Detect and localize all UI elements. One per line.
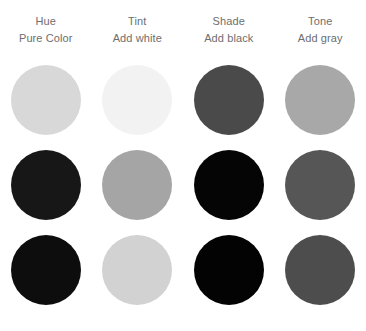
swatch-row [0, 142, 366, 227]
color-swatch-circle [11, 65, 81, 135]
swatch-cell [92, 142, 184, 227]
color-swatch-circle [285, 150, 355, 220]
color-swatch-circle [285, 235, 355, 305]
color-swatch-circle [102, 150, 172, 220]
column-header-tone-title: Tone [275, 13, 366, 29]
column-header-hue-subtitle: Pure Color [0, 30, 92, 46]
swatch-cell [0, 227, 92, 312]
swatch-cell [0, 57, 92, 142]
swatch-cell [183, 142, 275, 227]
column-header-hue: Hue Pure Color [0, 13, 92, 46]
color-swatch-circle [194, 235, 264, 305]
color-swatch-circle [194, 150, 264, 220]
column-header-tone: Tone Add gray [275, 13, 366, 46]
column-header-shade-title: Shade [183, 13, 275, 29]
swatch-cell [92, 57, 184, 142]
swatch-cell [275, 142, 366, 227]
color-swatch-circle [102, 235, 172, 305]
column-header-tone-subtitle: Add gray [275, 30, 366, 46]
color-swatch-circle [11, 150, 81, 220]
column-header-hue-title: Hue [0, 13, 92, 29]
swatch-cell [183, 57, 275, 142]
color-matrix-diagram: Hue Pure Color Tint Add white Shade Add … [0, 0, 366, 331]
swatch-cell [92, 227, 184, 312]
column-header-tint-title: Tint [92, 13, 184, 29]
swatch-cell [275, 227, 366, 312]
swatch-cell [183, 227, 275, 312]
color-swatch-circle [11, 235, 81, 305]
column-header-shade-subtitle: Add black [183, 30, 275, 46]
swatch-row [0, 57, 366, 142]
swatch-cell [0, 142, 92, 227]
color-swatch-circle [285, 65, 355, 135]
swatch-row [0, 227, 366, 312]
swatch-grid [0, 57, 366, 312]
column-header-tint-subtitle: Add white [92, 30, 184, 46]
column-header-row: Hue Pure Color Tint Add white Shade Add … [0, 0, 366, 46]
column-header-tint: Tint Add white [92, 13, 184, 46]
color-swatch-circle [102, 65, 172, 135]
swatch-cell [275, 57, 366, 142]
color-swatch-circle [194, 65, 264, 135]
column-header-shade: Shade Add black [183, 13, 275, 46]
